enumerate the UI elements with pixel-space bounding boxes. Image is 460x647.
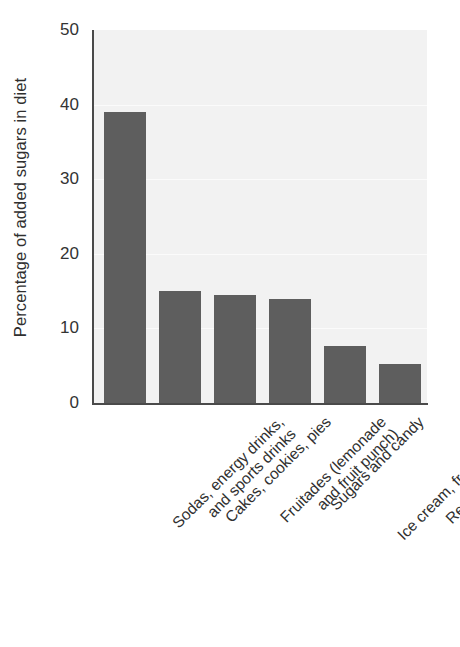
- y-tick-0: 0: [70, 393, 79, 413]
- plot-area: [93, 30, 427, 403]
- y-tick-20: 20: [60, 244, 79, 264]
- bar-cakes-cookies-pies[interactable]: [159, 291, 201, 403]
- bar-chart-figure: Percentage of added sugars in diet 50 40…: [0, 0, 460, 647]
- y-tick-10: 10: [60, 318, 79, 338]
- gridline-40: [93, 105, 427, 106]
- y-tick-40: 40: [60, 95, 79, 115]
- y-tick-50: 50: [60, 20, 79, 40]
- bar-sugars-and-candy[interactable]: [269, 299, 311, 403]
- y-axis-tick-labels: 50 40 30 20 10 0: [38, 0, 86, 415]
- bar-fruitades[interactable]: [214, 295, 256, 403]
- y-axis-title-text: Percentage of added sugars in diet: [12, 78, 31, 337]
- x-axis-tick-labels: Sodas, energy drinks, and sports drinks …: [93, 403, 427, 647]
- y-axis-title: Percentage of added sugars in diet: [4, 0, 38, 415]
- bar-ready-to-eat-cereals[interactable]: [379, 364, 421, 403]
- bar-ice-cream-frozen-yogurt[interactable]: [324, 346, 366, 403]
- y-tick-30: 30: [60, 169, 79, 189]
- y-axis-line: [92, 30, 94, 404]
- x-label-fruitades: Fruitades (lemonade and fruit punch): [277, 413, 402, 538]
- bar-sodas-energy-sports-drinks[interactable]: [104, 112, 146, 403]
